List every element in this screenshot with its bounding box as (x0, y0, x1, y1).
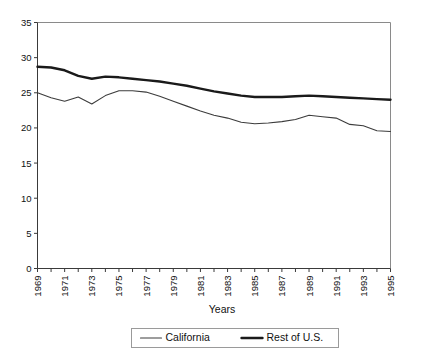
x-tick-label: 1971 (59, 276, 70, 297)
legend-label-rest-of-u-s: Rest of U.S. (267, 331, 324, 343)
x-tick-label: 1983 (222, 276, 233, 297)
y-tick-label: 30 (21, 52, 32, 63)
x-tick-label: 1991 (331, 276, 342, 297)
y-tick-label: 25 (21, 87, 32, 98)
data-series-group (38, 67, 391, 132)
x-tick-label: 1985 (249, 276, 260, 297)
y-tick-label: 35 (21, 17, 32, 28)
y-axis-ticks (34, 23, 38, 269)
line-chart: 05101520253035 1969197119731975197719791… (0, 0, 440, 352)
y-tick-label: 5 (26, 228, 31, 239)
x-tick-label: 1977 (141, 276, 152, 297)
chart-canvas: 05101520253035 1969197119731975197719791… (0, 0, 440, 352)
x-tick-label: 1973 (86, 276, 97, 297)
x-tick-label: 1975 (113, 276, 124, 297)
x-tick-label: 1987 (276, 276, 287, 297)
x-tick-label: 1981 (195, 276, 206, 297)
x-axis-title: Years (209, 303, 235, 315)
x-tick-label: 1995 (385, 276, 396, 297)
y-tick-label: 0 (26, 263, 31, 274)
x-axis-ticks (38, 269, 391, 273)
plot-frame (38, 23, 391, 269)
legend-label-california: California (166, 331, 211, 343)
x-tick-label: 1993 (358, 276, 369, 297)
y-tick-label: 10 (21, 193, 32, 204)
y-tick-label: 15 (21, 158, 32, 169)
y-tick-label: 20 (21, 122, 32, 133)
x-tick-label: 1969 (32, 276, 43, 297)
x-tick-label: 1989 (304, 276, 315, 297)
x-tick-label: 1979 (168, 276, 179, 297)
chart-legend: CaliforniaRest of U.S. (132, 329, 339, 348)
series-line-rest-of-u-s (38, 67, 391, 100)
y-axis-tick-labels: 05101520253035 (21, 17, 32, 274)
x-axis-tick-labels: 1969197119731975197719791981198319851987… (32, 276, 396, 297)
